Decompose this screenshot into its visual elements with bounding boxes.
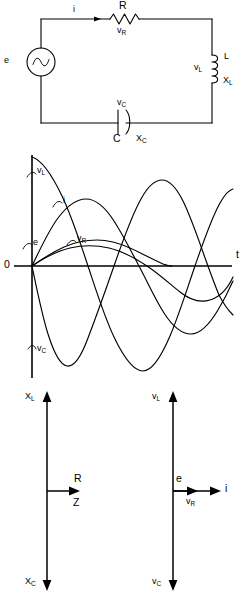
curve-label-i-main: i xyxy=(63,195,65,205)
curve-label-v-l: vL xyxy=(37,166,45,175)
phasor-label-v-r-main: v xyxy=(186,496,191,506)
phasor-label-v-c: vC xyxy=(152,577,161,586)
curve-label-v-c: vC xyxy=(37,344,46,353)
curve-label-v-r-main: v xyxy=(77,233,82,243)
waveform-label-pointers xyxy=(0,0,248,598)
phasor-label-v-l-sub: L xyxy=(157,395,161,402)
phasor-label-v-l-main: v xyxy=(152,391,157,401)
v-c-label-pointer xyxy=(28,346,36,349)
e-label-pointer xyxy=(23,243,32,249)
phasor-label-z: Z xyxy=(73,497,79,508)
phasor-label-x-c-sub: C xyxy=(31,580,36,587)
v-l-label-pointer xyxy=(27,172,36,177)
phasor-label-v-l: vL xyxy=(152,392,160,401)
phasor-label-e: e xyxy=(176,473,182,484)
phasor-label-v-c-main: v xyxy=(152,576,157,586)
curve-label-i: i xyxy=(63,196,65,205)
phasor-label-i: i xyxy=(225,483,227,494)
curve-label-v-r: vR xyxy=(77,234,86,243)
phasor-label-v-r-sub: R xyxy=(191,500,196,507)
curve-label-v-c-main: v xyxy=(37,343,42,353)
v-r-label-pointer xyxy=(67,240,76,245)
curve-label-v-r-sub: R xyxy=(82,237,87,244)
curve-label-e: e xyxy=(33,238,38,247)
curve-label-v-l-sub: L xyxy=(42,169,46,176)
phasor-label-x-l: XL xyxy=(25,392,35,401)
figure-root: i R vR e L vL XL vC C XC 0 t vL i e vR xyxy=(0,0,248,598)
curve-label-v-c-sub: C xyxy=(42,347,47,354)
phasor-label-x-c: XC xyxy=(25,577,36,586)
phasor-label-v-r: vR xyxy=(186,497,195,506)
phasor-label-v-c-sub: C xyxy=(157,580,162,587)
curve-label-e-main: e xyxy=(33,237,38,247)
i-label-pointer xyxy=(53,201,62,207)
phasor-label-r: R xyxy=(74,473,82,484)
phasor-label-x-l-sub: L xyxy=(31,395,35,402)
curve-label-v-l-main: v xyxy=(37,165,42,175)
